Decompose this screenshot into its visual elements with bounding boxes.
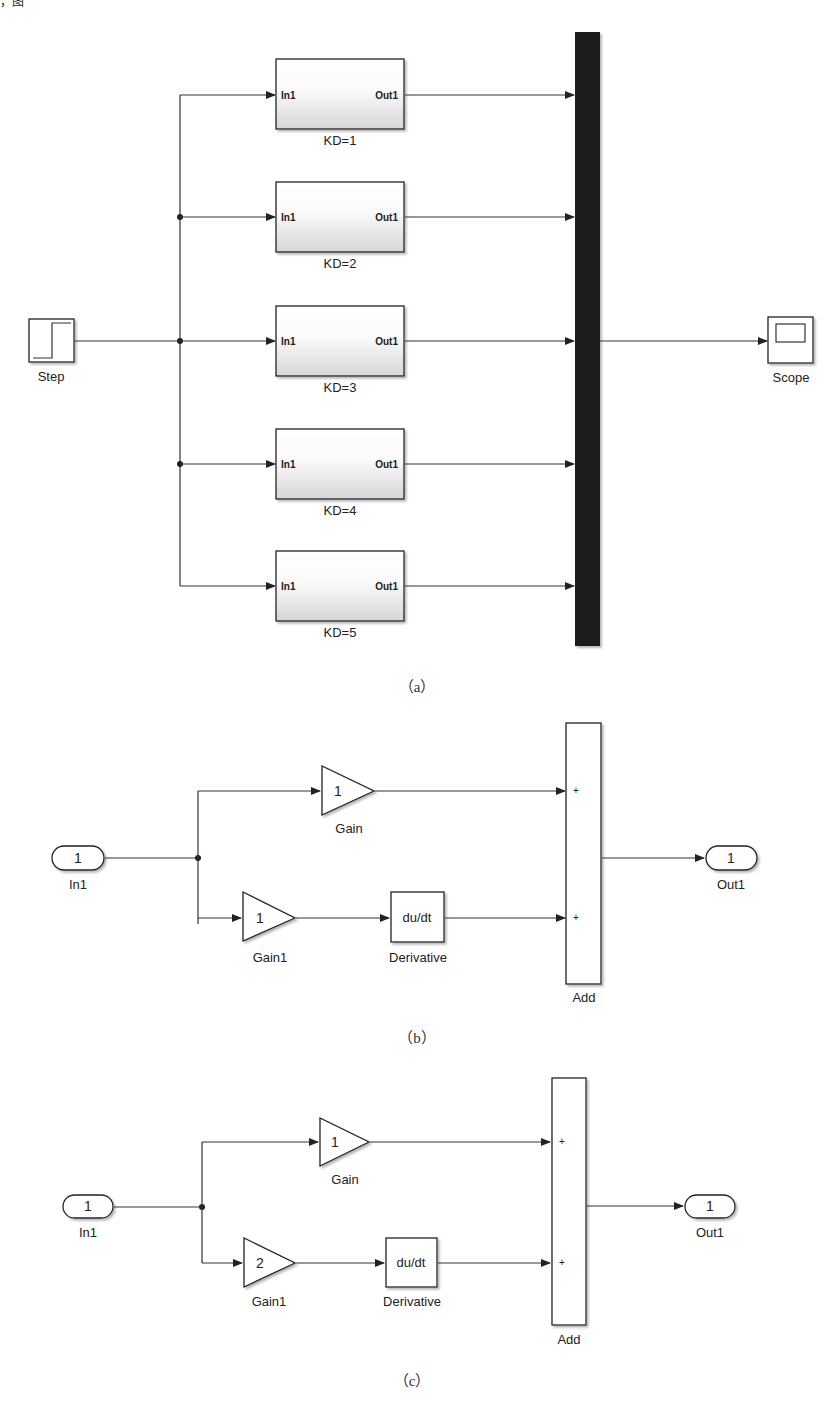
gain1-label: Gain1: [253, 950, 288, 965]
step-block[interactable]: [29, 319, 74, 362]
gain1-value: 1: [256, 910, 264, 926]
in-port-label: In1: [281, 90, 296, 101]
caption-a: （a）: [399, 679, 436, 695]
subsystem-label: KD=4: [324, 503, 357, 518]
gain-value: 1: [334, 783, 342, 799]
outport-label: Out1: [717, 877, 745, 892]
diagram-b: 1 In1 1 Gain 1 Gain1 du/dt Derivative + …: [52, 723, 757, 1046]
out-port-label: Out1: [375, 581, 398, 592]
derivative-value: du/dt: [397, 1255, 426, 1270]
in-port-label: In1: [281, 459, 296, 470]
add-label: Add: [557, 1332, 580, 1347]
gain1-value: 2: [256, 1255, 264, 1271]
mux-block[interactable]: [575, 32, 600, 646]
caption-c: （c）: [394, 1373, 431, 1389]
subsystem-label: KD=3: [324, 380, 357, 395]
add-sign: +: [559, 1136, 565, 1147]
out-port-label: Out1: [375, 336, 398, 347]
out-port-label: Out1: [375, 459, 398, 470]
gain-value: 1: [331, 1134, 339, 1150]
gain1-block[interactable]: [244, 1238, 295, 1287]
out-port-label: Out1: [375, 90, 398, 101]
subsystem-label: KD=5: [324, 625, 357, 640]
diagram-c: 1 In1 1 Gain 2 Gain1 du/dt Derivative + …: [63, 1078, 735, 1389]
derivative-label: Derivative: [389, 950, 447, 965]
outport-value: 1: [727, 850, 735, 866]
add-block[interactable]: [566, 723, 601, 984]
scope-label: Scope: [773, 370, 810, 385]
add-label: Add: [572, 990, 595, 1005]
add-sign: +: [559, 1257, 565, 1268]
in-port-label: In1: [281, 581, 296, 592]
inport-label: In1: [79, 1225, 97, 1240]
scope-block[interactable]: [768, 317, 813, 363]
top-text-fragment: ，图: [0, 0, 24, 9]
gain-label: Gain: [331, 1172, 358, 1187]
in-port-label: In1: [281, 336, 296, 347]
add-sign: +: [573, 912, 579, 923]
outport-label: Out1: [696, 1225, 724, 1240]
gain-block[interactable]: [320, 1118, 369, 1166]
diagram-a: Step In1 Out1 KD=1 In1 Out1 KD=2 In1 Out…: [29, 32, 813, 695]
out-port-label: Out1: [375, 212, 398, 223]
add-block[interactable]: [552, 1078, 586, 1325]
caption-b: （b）: [398, 1030, 436, 1046]
gain-label: Gain: [335, 821, 362, 836]
gain1-block[interactable]: [243, 892, 295, 941]
in-port-label: In1: [281, 212, 296, 223]
inport-value: 1: [84, 1198, 92, 1214]
scope-screen-icon: [776, 324, 805, 342]
subsystem-label: KD=2: [324, 256, 357, 271]
add-sign: +: [573, 785, 579, 796]
derivative-value: du/dt: [403, 910, 432, 925]
inport-value: 1: [74, 850, 82, 866]
subsystem-label: KD=1: [324, 133, 357, 148]
inport-label: In1: [69, 877, 87, 892]
derivative-label: Derivative: [383, 1294, 441, 1309]
gain-block[interactable]: [322, 766, 374, 815]
step-label: Step: [38, 369, 65, 384]
outport-value: 1: [706, 1198, 714, 1214]
gain1-label: Gain1: [252, 1294, 287, 1309]
